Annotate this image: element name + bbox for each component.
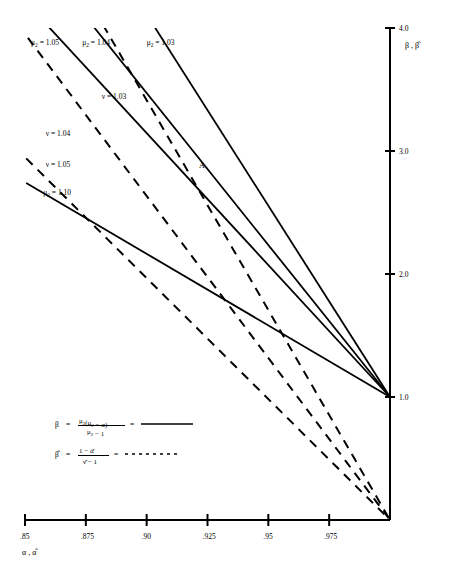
x-tick-label: .85 (20, 532, 30, 541)
series-label: ν = 1.05 (46, 160, 71, 169)
legend-equals-sign: = (66, 420, 70, 429)
legend-fraction-denominator: ν̂ − 1 (83, 458, 98, 466)
chart-annotations: A (199, 161, 205, 170)
top-clip-mask (0, 0, 453, 28)
series-label: ν = 1.03 (102, 92, 127, 101)
chart-canvas: μ2 = 1.03μ2 = 1.04μ2 = 1.05μ2 = 1.10ν = … (0, 0, 453, 588)
series-label: ν = 1.04 (46, 129, 71, 138)
y-tick-label: 2.0 (399, 270, 409, 279)
x-axis-title: α , α̂ (22, 548, 38, 557)
y-axis-title: β , β̂ (405, 41, 421, 50)
legend-sample-equals: = (130, 420, 134, 429)
legend-sample-equals: = (114, 450, 118, 459)
chart-background (0, 0, 453, 588)
legend-formula-lhs: β (55, 420, 59, 429)
x-tick-label: .925 (203, 532, 216, 541)
y-tick-label: 4.0 (399, 24, 409, 33)
legend-equals-sign: = (66, 450, 70, 459)
annotation-label: A (199, 161, 205, 170)
x-tick-label: .875 (81, 532, 94, 541)
x-tick-label: .975 (324, 532, 337, 541)
y-tick-label: 3.0 (399, 147, 409, 156)
legend-fraction-numerator: 1 − α̂ (79, 447, 96, 455)
x-tick-label: .95 (263, 532, 273, 541)
x-tick-label: .90 (142, 532, 152, 541)
chart-figure: μ2 = 1.03μ2 = 1.04μ2 = 1.05μ2 = 1.10ν = … (0, 0, 453, 588)
y-tick-label: 1.0 (399, 393, 409, 402)
